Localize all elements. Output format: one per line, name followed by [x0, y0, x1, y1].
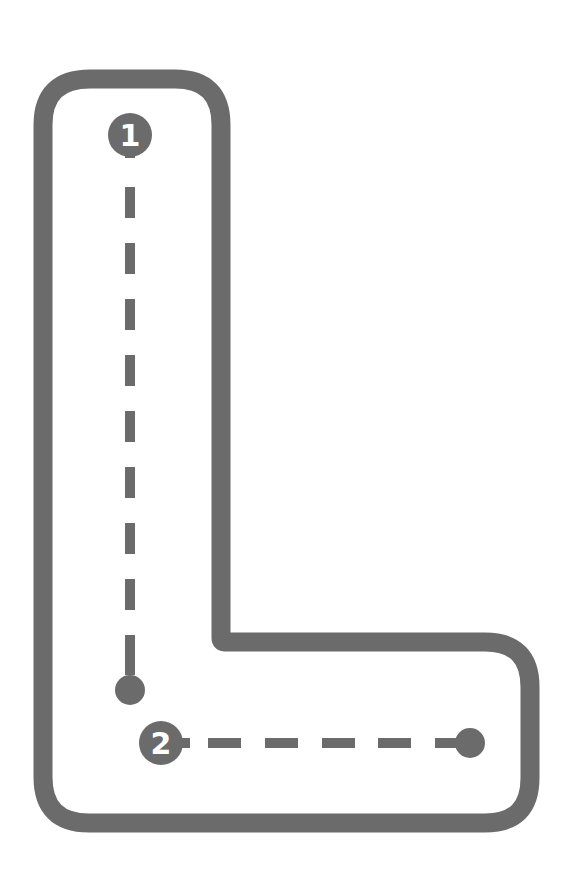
- stroke-1-end-dot: [115, 675, 145, 705]
- stroke-2-dash: [208, 738, 241, 748]
- stroke-1-dash: [125, 523, 135, 554]
- stroke-2-end-dot: [455, 728, 485, 758]
- stroke-1-dash: [125, 635, 135, 675]
- stroke-1-dash: [125, 243, 135, 274]
- stroke-2-dash: [378, 738, 411, 748]
- stroke-1-dash: [125, 187, 135, 218]
- stroke-2-dash: [265, 738, 298, 748]
- stroke-2-start-marker: 2: [139, 721, 183, 765]
- stroke-1-dash: [125, 355, 135, 386]
- letter-l-outline: [43, 79, 530, 823]
- letter-l-tracing-sheet: 1 2: [0, 0, 579, 879]
- stroke-1-dash: [125, 579, 135, 610]
- stroke-2-number: 2: [151, 726, 172, 761]
- stroke-1-dash: [125, 467, 135, 498]
- stroke-1-dash: [125, 299, 135, 330]
- stroke-1-number: 1: [120, 118, 141, 153]
- stroke-2-dash: [322, 738, 355, 748]
- stroke-1-start-marker: 1: [108, 113, 152, 157]
- stroke-1-dash: [125, 411, 135, 442]
